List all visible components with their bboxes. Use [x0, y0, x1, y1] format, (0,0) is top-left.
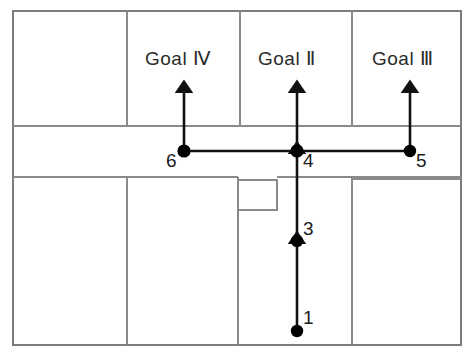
node-label-4: 4	[303, 150, 314, 172]
node-label-6: 6	[166, 150, 177, 172]
node-label-5: 5	[416, 150, 427, 172]
goal-label-iii: Goal Ⅲ	[372, 47, 433, 70]
goal-label-iv: Goal Ⅳ	[145, 47, 211, 70]
node-dot-5[interactable]	[404, 145, 416, 157]
node-dot-3[interactable]	[291, 235, 303, 247]
node-dot-6[interactable]	[177, 144, 190, 157]
node-dot-4[interactable]	[290, 144, 303, 157]
goal-label-ii: Goal Ⅱ	[258, 47, 315, 70]
node-label-3: 3	[303, 218, 314, 240]
node-label-1: 1	[303, 307, 314, 329]
alcove-notch	[238, 180, 277, 210]
floorplan-diagram: Goal Ⅳ Goal Ⅱ Goal Ⅲ 6 4 5 3 1	[0, 0, 472, 356]
node-dot-1[interactable]	[291, 325, 303, 337]
